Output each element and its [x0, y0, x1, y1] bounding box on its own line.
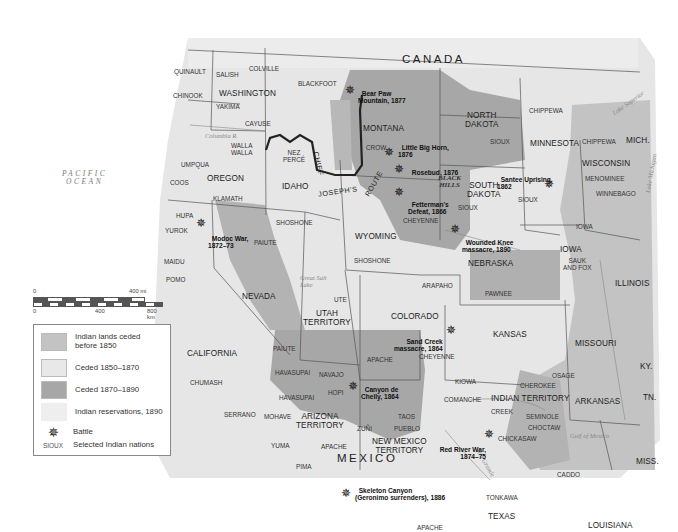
nation-hopi: HOPI [328, 390, 344, 397]
state-illinois: ILLINOIS [615, 280, 649, 289]
battle-star-icon: ✵ [544, 178, 554, 191]
nation-sample: SIOUX [41, 442, 65, 449]
gulf-of-mexico-label: Gulf of Mexico [570, 433, 609, 440]
nation-yurok: YUROK [165, 228, 188, 235]
nation-sioux-nd: SIOUX [490, 139, 510, 146]
battle-star-icon: ✵ [348, 380, 358, 393]
legend-item-ceded-1850-1870: Ceded 1850–1870 [41, 359, 139, 377]
state-wisconsin: WISCONSIN [582, 160, 630, 169]
nation-choctaw: CHOCTAW [528, 425, 560, 432]
nation-shoshone-id: SHOSHONE [276, 220, 313, 227]
nation-pawnee: PAWNEE [485, 291, 512, 298]
legend-item-battle: ✵ Battle [41, 425, 93, 440]
nation-osage: OSAGE [552, 373, 575, 380]
battle-star-icon: ✵ [446, 324, 456, 337]
battle-sand-creek: ✵Sand Creek massacre, 1864 [394, 332, 443, 353]
nation-havasupai-1: HAVASUPAI [275, 370, 310, 377]
battle-star-icon: ✵ [384, 146, 394, 159]
nation-comanche: COMANCHE [444, 397, 481, 404]
nation-nez-perce: NEZ PERCÉ [283, 150, 305, 163]
legend-label: Indian lands ceded before 1850 [75, 333, 140, 350]
state-north-dakota: NORTH DAKOTA [465, 112, 499, 129]
battle-star-icon: ✵ [394, 163, 404, 176]
nation-kiowa: KIOWA [455, 379, 476, 386]
battle-rosebud: ✵Rosebud, 1876 [408, 163, 458, 177]
nation-chippewa-mn: CHIPPEWA [529, 108, 563, 115]
nation-sioux-sd: SIOUX [458, 205, 478, 212]
legend-label: Selected Indian nations [73, 441, 154, 450]
nation-pomo: POMO [166, 277, 186, 284]
legend-swatch [41, 359, 67, 377]
state-louisiana: LOUISIANA [588, 522, 633, 531]
nation-serrano: SERRANO [224, 412, 256, 419]
battle-wounded-knee: ✵Wounded Knee massacre, 1890 [462, 233, 514, 254]
nation-cherokee: CHEROKEE [520, 383, 556, 390]
state-mich: MICH. [626, 137, 650, 146]
legend-label: Battle [73, 428, 93, 437]
state-california: CALIFORNIA [187, 350, 237, 359]
nation-apache-az: APACHE [321, 444, 347, 451]
legend-label: Indian reservations, 1890 [75, 408, 163, 417]
legend-swatch [41, 403, 67, 421]
nation-winnebago: WINNEBAGO [596, 191, 636, 198]
scale-km-0: 0 [33, 308, 36, 314]
nation-chumash: CHUMASH [190, 380, 222, 387]
battle-star-icon: ✵ [196, 217, 206, 230]
nation-quinault: QUINAULT [174, 69, 206, 76]
map-legend: Indian lands ceded before 1850 Ceded 185… [33, 324, 171, 456]
nation-paiute-north: PAIUTE [254, 240, 277, 247]
nation-colville: COLVILLE [249, 66, 279, 73]
scale-km-800: 800 km [147, 308, 163, 320]
great-salt-lake-label: Great Salt Lake [300, 275, 340, 289]
canada-label: CANADA [402, 53, 465, 65]
legend-item-ceded-before-1850: Indian lands ceded before 1850 [41, 333, 140, 351]
state-tn: TN. [643, 394, 657, 403]
state-oregon: OREGON [207, 175, 244, 184]
scale-bar-km [33, 302, 163, 307]
battle-modoc: ✵Modoc War, 1872–73 [208, 229, 248, 250]
nation-maidu: MAIDU [164, 259, 185, 266]
state-texas: TEXAS [488, 513, 515, 522]
scale-bar: 0 400 mi 0 400 800 km [33, 288, 163, 320]
scale-mi-400: 400 mi [129, 288, 146, 294]
nation-sioux-mn: SIOUX [518, 197, 538, 204]
state-arkansas: ARKANSAS [575, 398, 620, 407]
legend-label: Ceded 1870–1890 [75, 386, 139, 395]
nation-yakima: YAKIMA [216, 104, 240, 111]
columbia-river-label: Columbia R. [205, 133, 238, 140]
nation-ute: UTE [334, 297, 347, 304]
legend-item-ceded-1870-1890: Ceded 1870–1890 [41, 381, 139, 399]
state-utah-territory: UTAH TERRITORY [303, 310, 351, 327]
legend-item-nations: SIOUX Selected Indian nations [41, 441, 154, 450]
state-washington: WASHINGTON [219, 90, 276, 99]
battle-red-river: ✵Red River War, 1874–75 [436, 440, 486, 461]
state-nebraska: NEBRASKA [468, 260, 513, 269]
nation-zuni: ZUÑI [357, 426, 372, 433]
nation-klamath: KLAMATH [213, 196, 243, 203]
legend-swatch [41, 333, 67, 351]
region-ceded-1870-1890-kansas [470, 250, 560, 300]
nation-havasupai-2: HAVASUPAI [279, 395, 314, 402]
nation-yuma: YUMA [271, 443, 289, 450]
state-kansas: KANSAS [493, 331, 527, 340]
nation-coos: COOS [170, 180, 189, 187]
nation-chippewa-wi: CHIPPEWA [582, 139, 616, 146]
state-miss: MISS. [636, 458, 659, 467]
nation-creek: CREEK [491, 409, 513, 416]
nation-chinook: CHINOOK [173, 93, 203, 100]
nation-caddo: CADDO [557, 472, 580, 479]
nation-navajo: NAVAJO [319, 372, 344, 379]
nation-umpqua: UMPQUA [181, 162, 209, 169]
nation-cheyenne-south: CHEYENNE [419, 354, 455, 361]
legend-swatch [41, 381, 67, 399]
nation-menominee: MENOMINEE [585, 176, 624, 183]
nation-hupa: HUPA [176, 213, 193, 220]
nation-taos: TAOS [398, 414, 415, 421]
nation-tonkawa: TONKAWA [486, 495, 518, 502]
state-idaho: IDAHO [282, 183, 308, 192]
nation-walla-walla: WALLA WALLA [231, 143, 252, 156]
battle-star-icon: ✵ [41, 425, 65, 440]
scale-mi-0: 0 [33, 288, 36, 294]
legend-item-reservations-1890: Indian reservations, 1890 [41, 403, 163, 421]
nation-pueblo: PUEBLO [394, 426, 420, 433]
